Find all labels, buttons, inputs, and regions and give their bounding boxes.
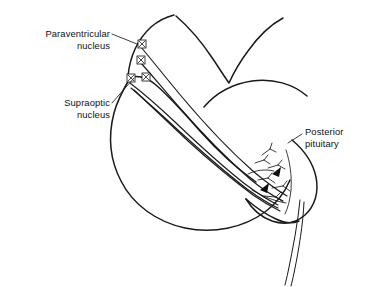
leader-line-paraventricular (112, 34, 137, 44)
supraoptic-nucleus-somas (127, 73, 150, 82)
soma-pvn-2 (137, 56, 145, 64)
leader-line-supraoptic (112, 78, 134, 103)
tuber-cinereum-contour (204, 80, 307, 107)
soma-son-2 (142, 73, 150, 81)
brain-midline-contour (176, 16, 283, 83)
label-supraoptic-line1: Supraoptic (4, 97, 110, 109)
label-posterior-pituitary: Posterior pituitary (305, 126, 369, 149)
arrowhead-1 (272, 167, 281, 177)
terminal-branch-3 (268, 160, 285, 169)
label-supraoptic-line2: nucleus (4, 109, 110, 121)
posterior-pituitary-outline (246, 140, 317, 223)
vessel-line-1 (285, 200, 300, 285)
label-paraventricular-line2: nucleus (4, 40, 110, 52)
hypophyseal-vessels-group (285, 200, 304, 286)
anatomical-figure: Paraventricular nucleus Supraoptic nucle… (0, 0, 370, 287)
soma-pvn-1 (138, 40, 146, 48)
label-supraoptic-nucleus: Supraoptic nucleus (4, 97, 110, 120)
label-paraventricular-nucleus: Paraventricular nucleus (4, 28, 110, 51)
axon-fiber-2 (140, 62, 283, 201)
axon-fiber-1 (140, 46, 287, 196)
axon-fiber-3 (130, 83, 278, 205)
terminal-branch-2 (255, 155, 270, 164)
vessel-line-2 (291, 202, 304, 286)
label-posterior-pituitary-line1: Posterior (305, 126, 369, 138)
axon-tract-group (130, 46, 287, 211)
label-paraventricular-line1: Paraventricular (4, 28, 110, 40)
third-ventricle-left-wall (128, 15, 174, 76)
terminal-branch-1 (262, 143, 276, 155)
label-posterior-pituitary-line2: pituitary (305, 138, 369, 150)
infundibular-stalk-edge (131, 76, 256, 182)
